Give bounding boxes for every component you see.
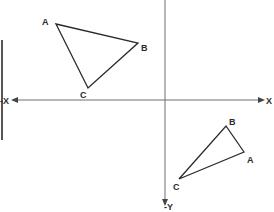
triangle-upper-vertex-b: B <box>141 43 148 53</box>
triangle-upper-vertex-c: C <box>80 90 87 100</box>
x-axis-right-arrow-icon <box>258 97 265 103</box>
y-axis-label: -Y <box>164 202 173 212</box>
triangle-lower-vertex-c: C <box>173 182 180 192</box>
x-axis-left-arrow-icon <box>11 97 18 103</box>
x-negative-label: -X <box>0 96 9 106</box>
triangle-lower <box>179 126 244 179</box>
x-positive-label: X <box>266 96 272 106</box>
triangle-lower-vertex-a: A <box>247 155 254 165</box>
triangle-upper-vertex-a: A <box>42 17 49 27</box>
coordinate-diagram: X -X -Y A B C A B C <box>0 0 274 212</box>
triangle-lower-vertex-b: B <box>229 117 236 127</box>
triangle-upper <box>56 24 138 88</box>
